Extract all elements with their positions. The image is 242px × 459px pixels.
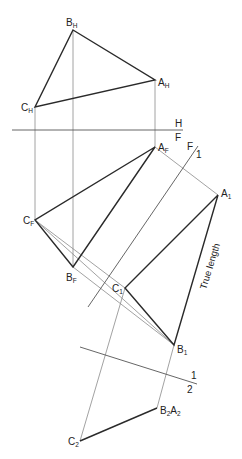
fold-label-f1-1: 1 bbox=[196, 149, 202, 160]
label-a-h: AH bbox=[158, 77, 170, 89]
projector-c-f-1 bbox=[35, 220, 125, 288]
auxiliary-view-diagram: BH AH CH H F AF F 1 A1 CF BF C1 B1 True … bbox=[0, 0, 242, 459]
label-b2-a2: B2A2 bbox=[160, 405, 181, 417]
edge-view-2 bbox=[80, 408, 157, 441]
triangle-h-view bbox=[35, 30, 155, 107]
label-c-2: C2 bbox=[68, 436, 79, 448]
fold-label-12-2: 2 bbox=[187, 384, 193, 395]
true-length-annotation: True length bbox=[197, 242, 221, 291]
label-b-f: BF bbox=[66, 272, 77, 284]
label-a-f: AF bbox=[158, 142, 169, 154]
projector-c-1-2 bbox=[80, 288, 125, 441]
triangle-f-view bbox=[35, 147, 155, 267]
projector-a-f-1 bbox=[155, 147, 218, 195]
label-a-1: A1 bbox=[221, 188, 232, 200]
label-c-f: CF bbox=[23, 215, 34, 227]
fold-label-h: H bbox=[175, 118, 182, 129]
fold-label-f: F bbox=[175, 132, 181, 143]
fold-line-f-1 bbox=[88, 146, 198, 307]
label-c-1: C1 bbox=[112, 283, 123, 295]
label-c-h: CH bbox=[21, 102, 33, 114]
fold-label-12-1: 1 bbox=[191, 370, 197, 381]
fold-label-f1-f: F bbox=[187, 141, 193, 152]
projector-b-1-2 bbox=[157, 345, 174, 408]
label-b-h: BH bbox=[66, 17, 78, 29]
label-b-1: B1 bbox=[177, 344, 188, 356]
